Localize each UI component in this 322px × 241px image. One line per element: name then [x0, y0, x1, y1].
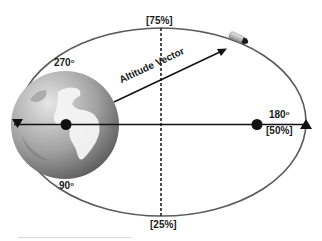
earth-focus-dot — [61, 119, 72, 130]
satellite-icon — [228, 31, 249, 46]
degree-mark: o — [70, 181, 74, 187]
top-percent-label: [75%] — [146, 15, 173, 26]
orbit-diagram — [0, 0, 322, 241]
bottom-percent-label: [25%] — [150, 219, 177, 230]
angle-90-label: 90o — [59, 180, 74, 191]
degree-mark: o — [71, 58, 75, 64]
degree-mark: o — [286, 110, 290, 116]
angle-270-label: 270o — [54, 57, 74, 68]
apogee-dot — [252, 119, 263, 130]
angle-180-value: 180 — [269, 109, 286, 120]
angle-270-value: 270 — [54, 57, 71, 68]
angle-180-label: 180o — [269, 109, 289, 120]
footer-divider — [18, 237, 132, 238]
right-percent-label: [50%] — [266, 125, 293, 136]
angle-90-value: 90 — [59, 180, 70, 191]
